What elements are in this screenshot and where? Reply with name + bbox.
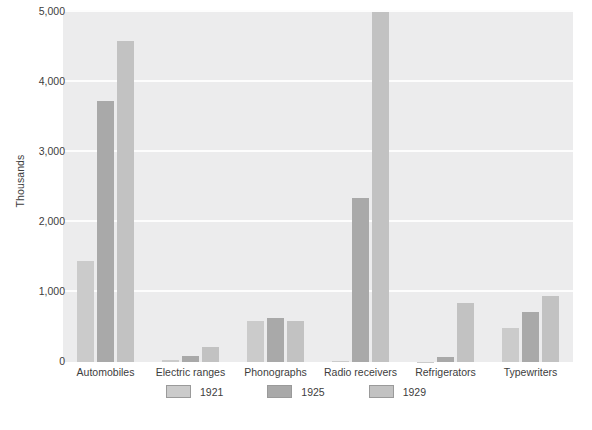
y-tick-label: 2,000: [5, 215, 65, 227]
bar: [502, 328, 519, 362]
x-tick-label: Typewriters: [488, 366, 573, 378]
bar-group: [502, 12, 559, 362]
bar-group: [162, 12, 219, 362]
legend-swatch: [369, 385, 394, 398]
bar: [117, 41, 134, 362]
bar: [352, 198, 369, 362]
legend-entry[interactable]: 1925: [267, 385, 324, 398]
footer-artifacts: [0, 418, 592, 430]
gridline: [63, 150, 573, 152]
bar: [162, 360, 179, 362]
bar: [457, 303, 474, 363]
bar-group: [417, 12, 474, 362]
bar: [437, 357, 454, 362]
y-tick-label: 5,000: [5, 5, 65, 17]
gridline: [63, 10, 573, 12]
legend-swatch: [166, 385, 191, 398]
plot-area: [63, 12, 573, 362]
x-tick-label: Radio receivers: [318, 366, 403, 378]
legend-label: 1921: [200, 386, 223, 398]
legend-entry[interactable]: 1921: [166, 385, 223, 398]
bar: [332, 361, 349, 362]
bar: [522, 312, 539, 362]
bar-chart: Thousands 01,0002,0003,0004,0005,000 Aut…: [0, 0, 592, 430]
legend-label: 1925: [301, 386, 324, 398]
legend-swatch: [267, 385, 292, 398]
legend-label: 1929: [403, 386, 426, 398]
x-tick-label: Phonographs: [233, 366, 318, 378]
bar: [77, 261, 94, 363]
gridline: [63, 220, 573, 222]
bar: [267, 318, 284, 362]
x-tick-label: Electric ranges: [148, 366, 233, 378]
x-tick-label: Automobiles: [63, 366, 148, 378]
y-tick-label: 4,000: [5, 75, 65, 87]
bar: [202, 347, 219, 362]
bar: [372, 12, 389, 362]
gridline: [63, 80, 573, 82]
bar: [542, 296, 559, 363]
y-tick-label: 3,000: [5, 145, 65, 157]
legend-entry[interactable]: 1929: [369, 385, 426, 398]
bar-group: [332, 12, 389, 362]
bar: [247, 321, 264, 362]
bar: [182, 356, 199, 362]
bar: [97, 101, 114, 362]
bar-group: [247, 12, 304, 362]
chart-legend: 192119251929: [0, 385, 592, 398]
y-tick-label: 0: [5, 355, 65, 367]
x-tick-label: Refrigerators: [403, 366, 488, 378]
gridline: [63, 290, 573, 292]
bar: [287, 321, 304, 362]
bar-group: [77, 12, 134, 362]
y-tick-label: 1,000: [5, 285, 65, 297]
